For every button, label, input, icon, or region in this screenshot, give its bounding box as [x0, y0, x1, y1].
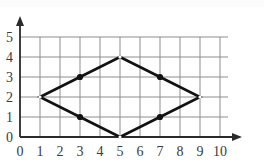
y-tick-label: 3 [6, 70, 13, 85]
x-tick-label: 2 [57, 144, 64, 159]
y-tick-label: 5 [6, 30, 13, 45]
data-point-open [118, 135, 121, 138]
data-point-open [198, 95, 201, 98]
x-tick-label: 7 [157, 144, 164, 159]
x-tick-label: 0 [17, 144, 24, 159]
y-tick-label: 0 [6, 130, 13, 145]
figure-canvas: 012345678910012345 [0, 0, 264, 165]
data-point-open [118, 55, 121, 58]
data-point-filled [157, 74, 163, 80]
data-point-filled [157, 114, 163, 120]
y-tick-label: 4 [6, 50, 13, 65]
data-point-filled [77, 74, 83, 80]
right-arrow-icon [232, 133, 242, 141]
y-tick-label: 1 [6, 110, 13, 125]
x-tick-label: 1 [37, 144, 44, 159]
x-tick-label: 10 [213, 144, 227, 159]
x-tick-label: 3 [77, 144, 84, 159]
x-tick-label: 4 [97, 144, 104, 159]
x-tick-label: 6 [137, 144, 144, 159]
coordinate-plot: 012345678910012345 [0, 0, 264, 165]
up-arrow-icon [16, 16, 24, 26]
x-tick-label: 5 [117, 144, 124, 159]
x-tick-label: 9 [197, 144, 204, 159]
data-point-open [38, 95, 41, 98]
data-point-filled [77, 114, 83, 120]
y-tick-label: 2 [6, 90, 13, 105]
x-tick-label: 8 [177, 144, 184, 159]
